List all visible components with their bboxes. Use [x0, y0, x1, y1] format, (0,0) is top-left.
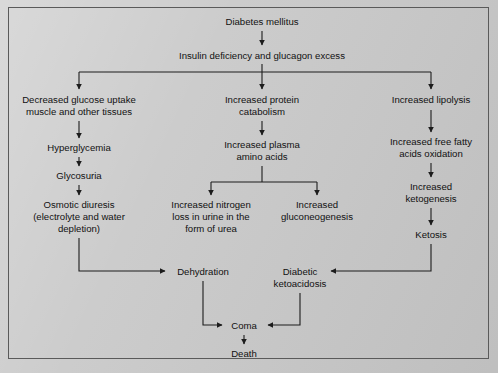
node-increased-ketogenesis-line1: Increased [410, 181, 452, 192]
flowchart-page: Diabetes mellitus Insulin deficiency and… [0, 0, 498, 373]
node-decreased-glucose-uptake-line2: muscle and other tissues [26, 106, 132, 117]
node-increased-protein-catabolism-line2: catabolism [239, 106, 285, 117]
node-increased-free-fatty-acids-line1: Increased free fatty [390, 136, 472, 147]
node-increased-nitrogen-loss-line2: loss in urine in the [172, 211, 249, 222]
node-diabetes-mellitus: Diabetes mellitus [225, 16, 298, 27]
node-increased-gluconeogenesis-line2: gluconeogenesis [281, 211, 353, 222]
node-death: Death [231, 348, 257, 359]
node-increased-plasma-amino-acids-line2: amino acids [236, 151, 287, 162]
node-dehydration: Dehydration [177, 266, 229, 277]
node-diabetic-ketoacidosis-line2: ketoacidosis [274, 278, 327, 289]
node-glycosuria: Glycosuria [56, 170, 102, 181]
node-ketosis: Ketosis [415, 229, 447, 240]
node-osmotic-diuresis-line1: Osmotic diuresis [44, 199, 115, 210]
node-increased-lipolysis: Increased lipolysis [392, 94, 471, 105]
node-coma: Coma [231, 320, 257, 331]
node-increased-plasma-amino-acids-line1: Increased plasma [224, 139, 300, 150]
node-diabetic-ketoacidosis-line1: Diabetic [283, 266, 318, 277]
node-osmotic-diuresis-line3: depletion) [58, 223, 100, 234]
edge-osmotic-diuresis-to-dehydration [79, 238, 165, 271]
node-increased-ketogenesis-line2: ketogenesis [405, 193, 456, 204]
edge-dehydration-to-coma [203, 281, 222, 325]
node-decreased-glucose-uptake-line1: Decreased glucose uptake [22, 94, 136, 105]
node-increased-nitrogen-loss-line3: form of urea [185, 223, 237, 234]
node-hyperglycemia: Hyperglycemia [47, 142, 111, 153]
node-increased-nitrogen-loss-line1: Increased nitrogen [171, 199, 250, 210]
node-insulin-deficiency: Insulin deficiency and glucagon excess [179, 50, 345, 61]
node-increased-gluconeogenesis-line1: Increased [296, 199, 338, 210]
node-increased-free-fatty-acids-line2: acids oxidation [399, 148, 462, 159]
edge-ketosis-to-diabetic-ketoacidosis [331, 244, 431, 271]
node-osmotic-diuresis-line2: (electrolyte and water [33, 211, 126, 222]
edge-diabetic-ketoacidosis-to-coma [268, 293, 300, 325]
node-increased-protein-catabolism-line1: Increased protein [225, 94, 299, 105]
diabetes-pathophysiology-flowchart: Diabetes mellitus Insulin deficiency and… [0, 0, 498, 373]
